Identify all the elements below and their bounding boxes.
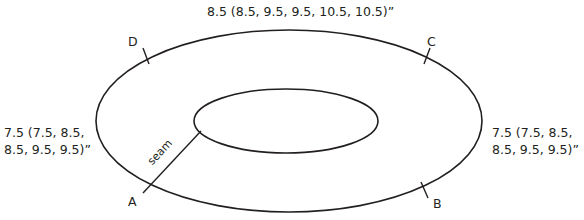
left-measurement-line-1: 7.5 (7.5, 8.5, xyxy=(4,124,91,141)
right-measurement-line-2: 8.5, 9.5, 9.5)” xyxy=(492,141,579,158)
left-measurement: 7.5 (7.5, 8.5, 8.5, 9.5, 9.5)” xyxy=(4,124,91,158)
right-measurement-line-1: 7.5 (7.5, 8.5, xyxy=(492,124,579,141)
point-label-d: D xyxy=(128,33,138,50)
right-measurement: 7.5 (7.5, 8.5, 8.5, 9.5, 9.5)” xyxy=(492,124,579,158)
left-measurement-line-2: 8.5, 9.5, 9.5)” xyxy=(4,141,91,158)
outer-edge xyxy=(96,30,482,212)
point-label-a: A xyxy=(128,193,137,210)
cowl-schematic xyxy=(0,0,584,220)
point-label-b: B xyxy=(433,195,442,212)
inner-edge xyxy=(194,89,378,153)
point-label-c: C xyxy=(427,33,436,50)
top-measurement: 8.5 (8.5, 9.5, 9.5, 10.5, 10.5)” xyxy=(207,3,394,20)
